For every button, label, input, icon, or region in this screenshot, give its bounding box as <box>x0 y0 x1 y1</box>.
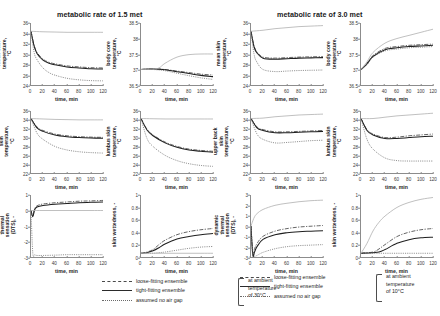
x-tick: 100 <box>307 177 315 182</box>
x-tick: 80 <box>76 261 81 266</box>
x-tick: 80 <box>406 89 411 94</box>
x-tick: 0 <box>249 177 252 182</box>
x-tick: 100 <box>87 177 95 182</box>
chart-panel: dynamic thermal sensation (DTS), --3-2-1… <box>0 190 107 278</box>
x-tick: 40 <box>272 261 277 266</box>
x-tick: 60 <box>394 261 399 266</box>
x-tick: 0 <box>249 89 252 94</box>
x-axis-label: time, min <box>360 96 433 102</box>
y-tick-labels: 36.53737.53838.5 <box>120 23 138 86</box>
legend-entry: tight-fitting ensemble <box>240 282 326 292</box>
x-tick: 0 <box>29 261 32 266</box>
x-tick: 60 <box>64 89 69 94</box>
x-axis-label: time, min <box>30 96 103 102</box>
x-tick: 80 <box>186 89 191 94</box>
y-axis-label: mean skin temperature, °C <box>0 18 10 88</box>
legend-right: loose-fitting ensembletight-fitting ense… <box>240 272 440 312</box>
x-tick: 60 <box>394 177 399 182</box>
x-tick: 40 <box>52 89 57 94</box>
x-tick: 120 <box>209 177 217 182</box>
x-tick-labels: 020406080100120 <box>30 106 103 194</box>
x-tick: 80 <box>76 89 81 94</box>
x-tick: 80 <box>296 261 301 266</box>
legend-entry: loose-fitting ensemble <box>102 276 188 286</box>
x-tick: 0 <box>359 261 362 266</box>
x-tick: 20 <box>150 261 155 266</box>
y-axis-label: lumbus skin temperature, °C <box>329 106 340 176</box>
x-tick: 20 <box>40 177 45 182</box>
y-axis-label: dynamic thermal sensation (DTS), - <box>219 190 230 260</box>
legend-line-swatch <box>240 274 270 280</box>
x-tick-labels: 020406080100120 <box>360 18 433 106</box>
x-tick: 100 <box>417 177 425 182</box>
y-tick-labels: 2224262830323436 <box>120 111 138 174</box>
legend-condition: at ambienttemperatureof 10°C <box>386 273 440 296</box>
x-tick: 120 <box>99 177 107 182</box>
y-axis-label: skin wettedness, - <box>329 190 340 260</box>
chart-panel: body core temperature, °C36.53737.53838.… <box>110 18 217 106</box>
chart-panel: body core temperature, °C36.53737.53838.… <box>330 18 437 106</box>
y-axis-label: upper back skin temperature, °C <box>0 106 10 176</box>
x-tick: 40 <box>272 89 277 94</box>
x-tick: 80 <box>296 177 301 182</box>
x-tick: 60 <box>174 177 179 182</box>
x-tick: 120 <box>209 89 217 94</box>
chart-panel: mean skin temperature, °C242628303234360… <box>220 18 327 106</box>
x-tick: 120 <box>319 177 327 182</box>
x-tick: 100 <box>87 89 95 94</box>
legend-brace <box>376 274 382 302</box>
x-tick-labels: 020406080100120 <box>250 106 323 194</box>
legend-line-swatch <box>102 297 132 303</box>
y-tick-labels: 24262830323436 <box>230 23 248 86</box>
x-tick: 120 <box>319 89 327 94</box>
chart-panel: lumbus skin temperature, °C2224262830323… <box>330 106 437 194</box>
legend-label: assumed no air gap <box>136 297 183 303</box>
x-tick-labels: 020406080100120 <box>140 190 213 278</box>
x-axis-label: time, min <box>30 268 103 274</box>
y-axis-label: lumbus skin temperature, °C <box>109 106 120 176</box>
x-axis-label: time, min <box>140 96 213 102</box>
x-tick: 20 <box>370 261 375 266</box>
x-tick-labels: 020406080100120 <box>360 106 433 194</box>
y-tick-labels: -3-2-10123 <box>230 195 248 258</box>
x-tick: 0 <box>359 89 362 94</box>
y-tick: 36.5 <box>129 84 138 89</box>
x-tick: 60 <box>174 89 179 94</box>
x-tick: 40 <box>382 261 387 266</box>
y-tick: 37.5 <box>349 52 358 57</box>
legend-label: tight-fitting ensemble <box>274 283 323 289</box>
legend-line-swatch <box>102 287 132 293</box>
legend-condition-line: at ambient <box>386 273 440 281</box>
x-tick: 60 <box>284 177 289 182</box>
x-tick: 60 <box>174 261 179 266</box>
y-tick-labels: 2224262830323436 <box>230 111 248 174</box>
x-tick: 60 <box>284 89 289 94</box>
x-tick: 20 <box>260 89 265 94</box>
x-tick: 100 <box>417 261 425 266</box>
legend-line-swatch <box>240 283 270 289</box>
x-tick: 20 <box>150 177 155 182</box>
y-tick-labels: -3-2-101 <box>10 195 28 258</box>
chart-panel: dynamic thermal sensation (DTS), --3-2-1… <box>220 190 327 278</box>
legend-entry: tight-fitting ensemble <box>102 286 188 296</box>
x-tick-labels: 020406080100120 <box>140 18 213 106</box>
x-tick-labels: 020406080100120 <box>250 18 323 106</box>
x-axis-label: time, min <box>250 96 323 102</box>
legend-label: loose-fitting ensemble <box>136 278 188 284</box>
y-axis-label: mean skin temperature, °C <box>219 18 230 88</box>
legend-label: tight-fitting ensemble <box>136 287 185 293</box>
y-axis-label: dynamic thermal sensation (DTS), - <box>0 190 10 260</box>
chart-panel: upper back skin temperature, °C222426283… <box>220 106 327 194</box>
x-tick: 120 <box>209 261 217 266</box>
x-tick: 0 <box>139 89 142 94</box>
x-tick: 20 <box>40 89 45 94</box>
x-tick: 20 <box>40 261 45 266</box>
chart-panel: mean skin temperature, °C242628303234360… <box>0 18 107 106</box>
y-axis-label: body core temperature, °C <box>109 18 120 88</box>
legend-line-swatch <box>240 293 270 299</box>
x-tick: 20 <box>370 89 375 94</box>
x-tick-labels: 020406080100120 <box>30 18 103 106</box>
x-tick: 100 <box>307 89 315 94</box>
x-tick: 80 <box>296 89 301 94</box>
x-tick-labels: 020406080100120 <box>250 190 323 278</box>
